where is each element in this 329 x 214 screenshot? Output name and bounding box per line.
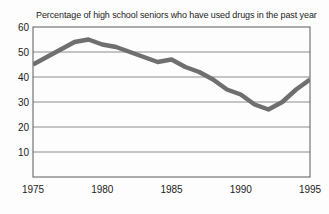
chart-figure: Percentage of high school seniors who ha… [0,0,329,214]
x-tick-label-1980: 1980 [87,184,117,195]
chart-plot-area [0,0,329,214]
y-tick-label-40: 40 [6,72,29,83]
y-tick-label-10: 10 [6,147,29,158]
y-tick-label-60: 60 [6,22,29,33]
x-tick-label-1975: 1975 [18,184,48,195]
x-tick-label-1990: 1990 [226,184,256,195]
y-tick-label-30: 30 [6,97,29,108]
x-tick-label-1995: 1995 [295,184,325,195]
y-tick-label-50: 50 [6,47,29,58]
x-tick-label-1985: 1985 [157,184,187,195]
y-tick-label-20: 20 [6,122,29,133]
gridlines [33,52,310,152]
data-line [33,40,310,110]
